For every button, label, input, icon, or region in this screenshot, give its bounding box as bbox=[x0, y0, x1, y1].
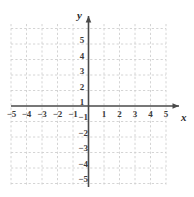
y-tick-label-neg2: −2 bbox=[75, 129, 88, 138]
x-axis-name-label: x bbox=[181, 112, 187, 123]
y-axis-name-label: y bbox=[77, 10, 82, 21]
x-tick-label-3: 3 bbox=[131, 110, 139, 119]
coordinate-plane-figure: −5 −4 −3 −2 −1 1 2 3 4 5 5 4 3 2 1 −1 −2… bbox=[0, 0, 194, 197]
y-tick-label-neg3: −3 bbox=[75, 144, 88, 153]
x-tick-label-neg2: −2 bbox=[52, 110, 63, 119]
y-tick-label-1: 1 bbox=[78, 98, 86, 107]
grid-and-axes bbox=[0, 0, 194, 197]
x-tick-label-neg4: −4 bbox=[21, 110, 32, 119]
y-tick-label-2: 2 bbox=[78, 83, 86, 92]
y-tick-label-neg5: −5 bbox=[75, 175, 88, 184]
y-tick-label-neg1: −1 bbox=[75, 113, 88, 122]
x-tick-label-1: 1 bbox=[100, 110, 108, 119]
x-tick-label-neg5: −5 bbox=[6, 110, 17, 119]
x-tick-label-neg3: −3 bbox=[37, 110, 48, 119]
x-tick-label-5: 5 bbox=[162, 110, 170, 119]
x-tick-label-2: 2 bbox=[116, 110, 124, 119]
y-tick-label-neg4: −4 bbox=[75, 160, 88, 169]
y-tick-label-5: 5 bbox=[78, 36, 86, 45]
x-tick-label-4: 4 bbox=[147, 110, 155, 119]
y-tick-label-3: 3 bbox=[78, 67, 86, 76]
x-axis bbox=[11, 103, 179, 109]
y-tick-label-4: 4 bbox=[78, 52, 86, 61]
